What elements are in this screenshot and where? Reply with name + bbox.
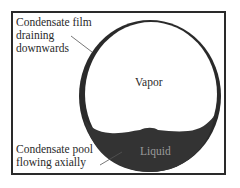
film-label-line1: Condensate film — [16, 16, 92, 29]
film-label-line3: downwards — [16, 42, 92, 55]
vapor-label: Vapor — [135, 76, 162, 89]
film-label-line2: draining — [16, 29, 92, 42]
condensate-film-label: Condensate film draining downwards — [16, 16, 92, 55]
liquid-label: Liquid — [140, 145, 171, 158]
pool-label-line2: flowing axially — [16, 156, 93, 169]
pool-label-line1: Condensate pool — [16, 143, 93, 156]
condensate-pool-label: Condensate pool flowing axially — [16, 143, 93, 169]
